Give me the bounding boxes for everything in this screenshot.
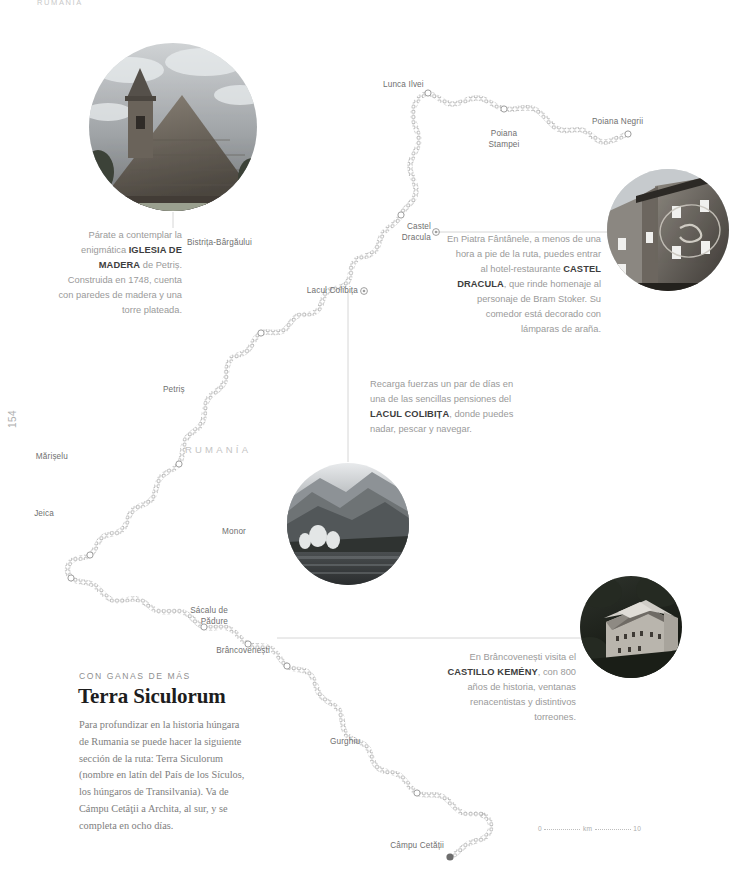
node-lunca-ilvei xyxy=(425,90,431,96)
label-lacul-colibita: Lacul Colibița xyxy=(248,286,358,296)
hotel-castel-dracula-photo xyxy=(607,169,729,291)
label-brancovenesti: Brâncovenești xyxy=(158,646,270,656)
lacul-colibita-photo xyxy=(287,463,409,585)
node-campu-cetatii xyxy=(446,853,453,860)
label-sacalu-de-2: Pădure xyxy=(168,617,228,627)
node-poiana-negrii xyxy=(625,131,631,137)
story-kicker: CON GANAS DE MÁS xyxy=(79,671,191,681)
iglesia-de-madera-photo xyxy=(82,43,266,216)
caption-castillo-kemeny: En Brâncovenești visita el CASTILLO KEMÉ… xyxy=(446,650,576,725)
label-petris: Petriș xyxy=(163,385,185,395)
caption-castle-bold: CASTILLO KEMÉNY xyxy=(447,667,537,677)
scale-unit: km xyxy=(582,825,593,832)
label-lunca-ilvei: Lunca Ilvei xyxy=(383,80,424,90)
caption-lake-pre: Recarga fuerzas un par de días en una de… xyxy=(370,379,513,404)
label-poiana-negrii: Poiana Negrii xyxy=(592,117,643,127)
label-mariselu: Mărișelu xyxy=(16,452,68,462)
node-petris xyxy=(176,461,182,467)
node-jeica xyxy=(68,575,74,581)
node-gurghiu xyxy=(414,790,420,796)
story-title: Terra Siculorum xyxy=(78,684,226,709)
label-campu-cetatii: Câmpu Cetății xyxy=(358,841,444,851)
caption-lake-bold: LACUL COLIBIȚA xyxy=(370,409,449,419)
caption-castel-dracula: En Piatra Fântânele, a menos de una hora… xyxy=(446,232,601,337)
caption-castle-pre: En Brâncovenești visita el xyxy=(470,652,576,662)
label-jeica: Jeica xyxy=(20,509,54,519)
scale-min: 0 xyxy=(538,825,542,832)
node-castel-dracula xyxy=(398,212,404,218)
label-poiana-stampei-2: Stampei xyxy=(473,140,535,150)
scale-dots-left xyxy=(544,829,580,831)
map-scale-bar: 0 km 10 xyxy=(538,825,641,832)
node-mariselu xyxy=(87,552,93,558)
label-monor: Monor xyxy=(222,527,246,537)
caption-iglesia-de-madera: Párate a contemplar la enigmática IGLESI… xyxy=(52,228,182,318)
country-label: RUMANÍA xyxy=(185,444,251,455)
castillo-kemeny-photo xyxy=(570,573,690,678)
caption-lacul-colibita: Recarga fuerzas un par de días en una de… xyxy=(370,377,520,437)
label-gurghiu: Gurghiu xyxy=(330,737,360,747)
magazine-map-page: RUMANÍA 154 xyxy=(0,0,729,893)
label-sacalu-de-1: Sácalu de xyxy=(168,606,228,616)
label-poiana-stampei-1: Poiana xyxy=(473,129,535,139)
scale-max: 10 xyxy=(633,825,641,832)
label-castel-2: Dracula xyxy=(363,233,431,243)
node-bistrita xyxy=(258,330,264,336)
story-body: Para profundizar en la historia húngara … xyxy=(79,717,247,834)
scale-dots-right xyxy=(595,829,631,831)
label-castel-1: Castel xyxy=(363,222,431,232)
node-brancovenesti xyxy=(284,663,290,669)
node-poiana-stampei xyxy=(501,106,507,112)
marker-lacul-colibita xyxy=(361,288,368,295)
